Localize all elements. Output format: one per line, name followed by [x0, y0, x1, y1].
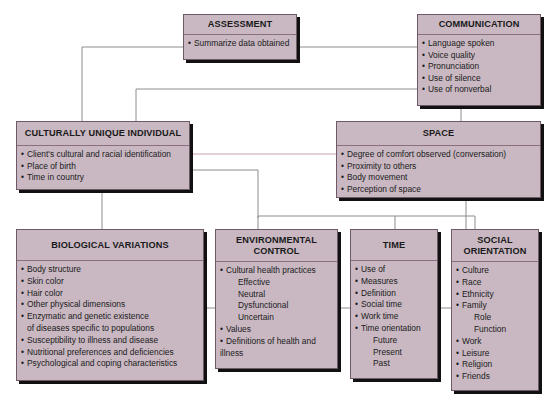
list-item: Proximity to others [341, 161, 536, 173]
social-orientation-box: SOCIAL ORIENTATION Culture Race Ethnicit… [451, 229, 539, 391]
time-box: TIME Use of Measures Definition Social t… [350, 229, 438, 379]
list-item: Work [456, 336, 534, 348]
list-item: Leisure [456, 348, 534, 360]
culturally-unique-individual-box: CULTURALLY UNIQUE INDIVIDUAL Client's cu… [16, 121, 190, 190]
social-orientation-title: SOCIAL ORIENTATION [452, 230, 538, 262]
list-item: Definition [355, 288, 433, 300]
list-item: Enzymatic and genetic existence [21, 311, 199, 323]
list-item: Family [456, 300, 534, 312]
list-item: Nutritional preferences and deficiencies [21, 347, 199, 359]
list-item: Body structure [21, 264, 199, 276]
list-item: Use of [355, 264, 433, 276]
list-item: Pronunciation [422, 61, 536, 73]
list-item: Degree of comfort observed (conversation… [341, 149, 536, 161]
list-item: Use of nonverbal [422, 84, 536, 96]
list-item: Definitions of health and [220, 336, 333, 348]
list-item: Dysfunctional [220, 300, 333, 312]
environmental-control-title: ENVIRONMENTAL CONTROL [216, 230, 337, 262]
list-item: Cultural health practices [220, 265, 333, 277]
list-item: Present [355, 347, 433, 359]
list-item: Client's cultural and racial identificat… [21, 149, 185, 161]
list-item: Language spoken [422, 38, 536, 50]
list-item: Role [456, 312, 534, 324]
list-item: Perception of space [341, 184, 536, 196]
list-item: Values [220, 324, 333, 336]
list-item: Race [456, 277, 534, 289]
list-item: Summarize data obtained [188, 38, 292, 49]
list-item: Uncertain [220, 312, 333, 324]
list-item: Future [355, 335, 433, 347]
list-item: Use of silence [422, 73, 536, 85]
list-item: Measures [355, 276, 433, 288]
environmental-control-box: ENVIRONMENTAL CONTROL Cultural health pr… [215, 229, 338, 369]
assessment-box: ASSESSMENT Summarize data obtained [183, 14, 297, 60]
list-item: of diseases specific to populations [21, 323, 199, 335]
list-item: Work time [355, 311, 433, 323]
list-item: Hair color [21, 288, 199, 300]
list-item: Voice quality [422, 50, 536, 62]
list-item: Social time [355, 299, 433, 311]
communication-title: COMMUNICATION [418, 15, 540, 35]
list-item: Friends [456, 371, 534, 383]
biological-variations-box: BIOLOGICAL VARIATIONS Body structure Ski… [16, 229, 204, 381]
list-item: Place of birth [21, 161, 185, 173]
communication-box: COMMUNICATION Language spoken Voice qual… [417, 14, 541, 106]
list-item: Skin color [21, 276, 199, 288]
time-title: TIME [351, 230, 437, 261]
list-item: Culture [456, 265, 534, 277]
list-item: Psychological and coping characteristics [21, 358, 199, 370]
space-title: SPACE [337, 122, 540, 146]
list-item: Neutral [220, 289, 333, 301]
list-item: Time orientation [355, 323, 433, 335]
list-item: Other physical dimensions [21, 299, 199, 311]
list-item: Time in country [21, 172, 185, 184]
list-item: illness [220, 348, 333, 360]
list-item: Susceptibility to illness and disease [21, 335, 199, 347]
list-item: Body movement [341, 172, 536, 184]
biological-variations-title: BIOLOGICAL VARIATIONS [17, 230, 203, 261]
list-item: Religion [456, 359, 534, 371]
list-item: Past [355, 358, 433, 370]
list-item: Effective [220, 277, 333, 289]
assessment-title: ASSESSMENT [184, 15, 296, 35]
culturally-unique-title: CULTURALLY UNIQUE INDIVIDUAL [17, 122, 189, 146]
list-item: Function [456, 324, 534, 336]
space-box: SPACE Degree of comfort observed (conver… [336, 121, 541, 198]
list-item: Ethnicity [456, 289, 534, 301]
